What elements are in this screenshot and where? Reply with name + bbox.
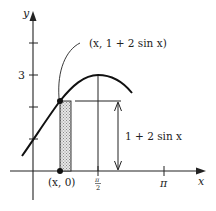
y-axis-arrow-icon	[30, 11, 37, 21]
y-tick-label-3: 3	[18, 69, 25, 82]
area-strip	[60, 101, 71, 171]
base-point-label: (x, 0)	[48, 176, 75, 188]
diagram-canvas: y x 3 π 2 π (x, 1 + 2 sin x) (x, 0) 1 + …	[0, 0, 216, 211]
x-tick-label-pi: π	[159, 177, 168, 190]
x-tick-label-pi-half-denominator: 2	[96, 184, 100, 192]
x-axis	[10, 166, 206, 176]
x-tick-label-pi-half-numerator: π	[94, 176, 100, 184]
x-axis-label: x	[198, 175, 205, 188]
curve-point-label: (x, 1 + 2 sin x)	[89, 37, 167, 49]
curve-1-plus-2-sin-x	[22, 75, 132, 156]
curve-point	[57, 98, 63, 104]
height-dimension-arrow	[115, 102, 122, 170]
base-point	[57, 168, 63, 174]
height-label: 1 + 2 sin x	[125, 130, 182, 142]
y-axis	[29, 11, 38, 200]
x-axis-arrow-icon	[196, 168, 206, 175]
y-axis-label: y	[22, 7, 30, 20]
